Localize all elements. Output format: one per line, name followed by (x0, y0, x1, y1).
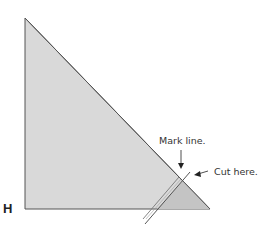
arrow-down-icon (178, 163, 184, 169)
quilt-triangle-diagram: Mark line. Cut here. H (0, 0, 271, 241)
cut-here-label: Cut here. (214, 166, 258, 177)
mark-line-label: Mark line. (159, 135, 206, 146)
corner-label: H (3, 201, 12, 216)
arrow-left-icon (194, 171, 201, 177)
